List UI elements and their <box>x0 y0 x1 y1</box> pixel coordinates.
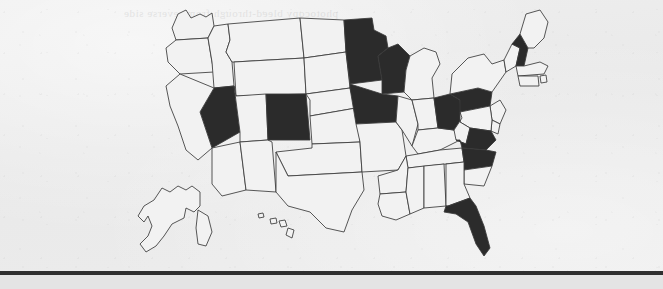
us-map-svg <box>0 0 663 270</box>
us-choropleth-map <box>0 0 663 270</box>
state-mississippi <box>406 166 424 214</box>
state-alaska-panhandle <box>196 210 212 246</box>
state-oregon <box>166 38 214 74</box>
state-south-carolina <box>464 166 492 186</box>
state-hawaii-island-3 <box>279 220 287 227</box>
state-rhode-island <box>540 75 547 83</box>
state-colorado[interactable] <box>266 94 310 140</box>
state-south-dakota <box>304 52 350 94</box>
state-wyoming <box>234 58 306 96</box>
state-washington <box>172 10 214 40</box>
state-missouri <box>356 122 406 172</box>
state-louisiana <box>378 192 410 220</box>
state-oklahoma <box>276 142 362 176</box>
state-hawaii-island-2 <box>270 218 277 224</box>
state-hawaii-island-1 <box>258 213 264 218</box>
state-hawaii-island-4 <box>286 228 294 238</box>
state-new-york <box>450 54 506 94</box>
state-connecticut <box>518 76 539 86</box>
state-alaska-inset <box>138 186 200 252</box>
state-alabama <box>424 164 446 208</box>
state-montana <box>226 18 304 62</box>
page-footer-margin <box>0 275 663 289</box>
state-florida[interactable] <box>444 198 490 256</box>
state-new-mexico <box>240 140 276 192</box>
state-north-dakota <box>300 18 346 58</box>
